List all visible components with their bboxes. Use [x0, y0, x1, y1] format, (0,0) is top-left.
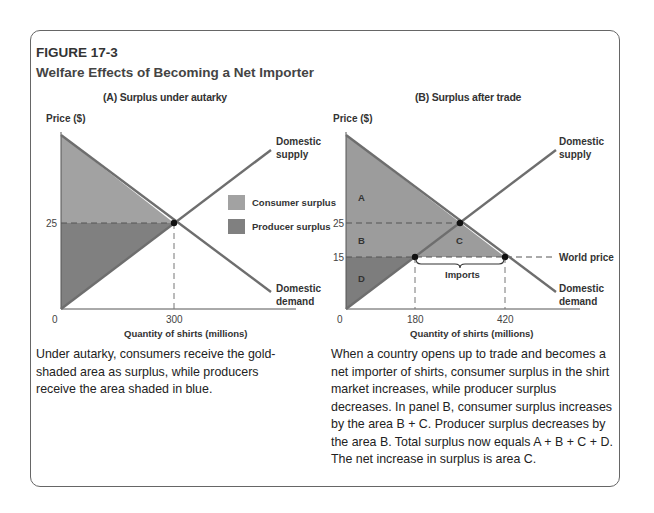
equilibrium-point — [171, 220, 177, 226]
world-price-label: World price — [559, 252, 614, 263]
legend-consumer-swatch — [228, 195, 245, 210]
y-tick-25: 25 — [333, 218, 345, 229]
legend: Consumer surplus Producer surplus — [228, 195, 336, 234]
x-axis-label: Quantity of shirts (millions) — [410, 328, 534, 339]
area-d-label: D — [358, 273, 365, 284]
autarky-equilibrium-point — [457, 220, 463, 226]
x-tick-300: 300 — [166, 314, 183, 325]
area-b-label: B — [358, 235, 365, 246]
panel-b-chart: Imports A B C D Price ($) 25 15 0 180 42… — [333, 113, 614, 339]
y-axis-label: Price ($) — [46, 113, 85, 124]
legend-producer-label: Producer surplus — [252, 221, 331, 232]
imports-label: Imports — [445, 269, 480, 280]
origin-label: 0 — [52, 314, 58, 325]
supply-label: Domestic supply — [559, 136, 607, 160]
supply-label: Domestic supply — [276, 136, 324, 160]
x-axis-label: Quantity of shirts (millions) — [124, 328, 248, 339]
supply-world-price-point — [412, 254, 418, 260]
demand-world-price-point — [502, 254, 508, 260]
y-tick-15: 15 — [333, 252, 345, 263]
panel-b-caption: When a country opens up to trade and bec… — [331, 346, 617, 469]
area-a-label: A — [358, 192, 365, 203]
imports-bracket — [416, 259, 504, 268]
y-tick-25: 25 — [46, 218, 58, 229]
x-tick-180: 180 — [407, 314, 424, 325]
legend-producer-swatch — [228, 219, 245, 234]
panel-a-chart: Price ($) 25 0 300 Quantity of shirts (m… — [46, 113, 336, 339]
demand-label: Domestic demand — [559, 283, 607, 307]
x-tick-420: 420 — [497, 314, 514, 325]
origin-label: 0 — [337, 314, 343, 325]
panel-a-caption: Under autarky, consumers receive the gol… — [36, 346, 286, 399]
legend-consumer-label: Consumer surplus — [252, 197, 336, 208]
demand-label: Domestic demand — [276, 283, 324, 307]
y-axis-label: Price ($) — [333, 113, 372, 124]
area-c-label: C — [456, 235, 463, 246]
